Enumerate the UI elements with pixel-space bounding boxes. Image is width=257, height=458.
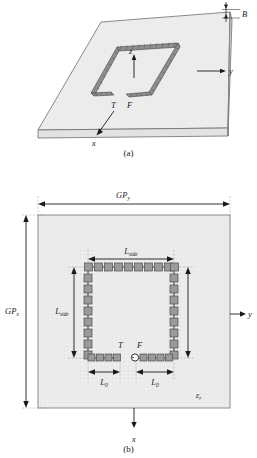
feed-f-label-b: F [136, 340, 143, 350]
panel-a-perspective-view: z y x T F B [0, 0, 257, 148]
axis-x-label-b: x [131, 434, 136, 444]
axis-x-arrow-b [131, 408, 136, 428]
axis-x-label-a: x [91, 138, 96, 148]
axis-y-label-b: y [247, 309, 252, 319]
caption-b: (b) [0, 444, 257, 454]
panel-b-svg: GPy GPx Lside Lside [0, 162, 257, 458]
thickness-b-label: B [242, 9, 247, 19]
gpx-dimension-arrow [23, 215, 28, 408]
gpx-label: GPx [5, 306, 19, 317]
caption-a: (a) [0, 148, 257, 158]
gpy-label: GPy [116, 190, 130, 201]
axis-z-label: z [128, 46, 133, 56]
panel-a-svg: z y x T F B [0, 0, 257, 148]
axis-y-label: y [228, 66, 233, 76]
panel-b-top-view: GPy GPx Lside Lside [0, 162, 257, 458]
axis-y-arrow-b [230, 311, 246, 316]
gpy-dimension-arrow [38, 201, 230, 206]
substrate-front-edge [38, 128, 228, 138]
loop-patches-top [85, 263, 179, 271]
feed-f-label-a: F [126, 100, 133, 110]
